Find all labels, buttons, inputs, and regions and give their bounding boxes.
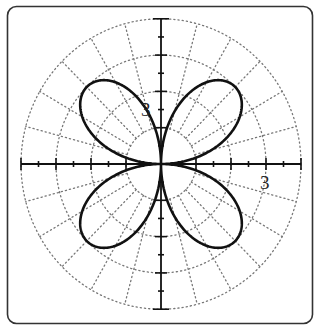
polar-plot: 3 3 bbox=[0, 0, 316, 334]
x-axis-label-3: 3 bbox=[260, 172, 270, 193]
y-axis-label-3: 3 bbox=[141, 99, 151, 120]
